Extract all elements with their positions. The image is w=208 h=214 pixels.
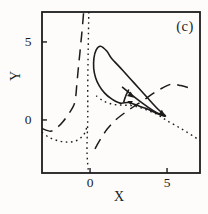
plot-frame: [42, 12, 200, 173]
y-axis-label: Y: [9, 71, 23, 81]
curve-dotted-nullcline-vertical: [87, 12, 89, 173]
panel-label: (c): [176, 19, 194, 34]
curve-dotted-nullcline-diagonal: [96, 96, 200, 141]
curve-dotted-nullcline-hook: [42, 125, 87, 143]
x-tick-label-0: 0: [87, 176, 94, 190]
curve-limit-cycle: [94, 46, 166, 116]
x-tick-label-5: 5: [164, 176, 171, 190]
curve-dashed-nullcline-left: [42, 12, 84, 131]
y-tick-label-5: 5: [25, 35, 32, 49]
figure-panel-c: (c) X Y 0505: [0, 0, 208, 214]
x-axis-label: X: [114, 190, 124, 204]
y-tick-label-0: 0: [25, 113, 32, 127]
curve-dashed-nullcline-right: [95, 84, 190, 149]
